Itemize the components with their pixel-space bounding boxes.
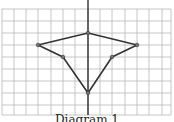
- vertex-point-top: [86, 31, 90, 35]
- vertex-point-bottom: [86, 91, 90, 95]
- grid-diagram: [0, 0, 174, 122]
- vertex-point-left: [36, 43, 40, 47]
- grid-lines: [2, 9, 171, 115]
- vertex-point-right: [135, 43, 139, 47]
- vertex-point-inner-right: [110, 55, 114, 59]
- vertex-point-inner-left: [61, 55, 65, 59]
- diagram-caption: Diagram 1: [0, 113, 174, 122]
